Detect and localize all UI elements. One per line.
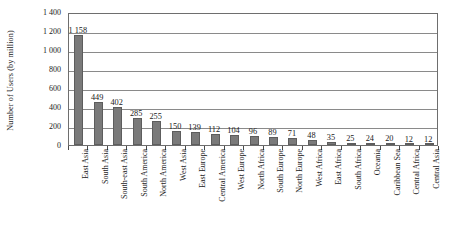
x-category-label: Central Asia	[432, 149, 441, 239]
x-category-label: West Europe	[237, 149, 246, 239]
x-category-label: East Asia	[81, 149, 90, 239]
bar[interactable]	[405, 143, 414, 145]
y-tick-label: 1 200	[43, 28, 61, 36]
x-category-label: South Africa	[354, 149, 363, 239]
x-category-label: East Europe	[198, 149, 207, 239]
bar[interactable]	[113, 107, 122, 145]
y-axis-title-text: Number of Users (by million)	[6, 30, 15, 131]
x-category-label: Central America	[218, 149, 227, 239]
bar[interactable]	[288, 138, 297, 145]
y-tick-label: 1 000	[43, 47, 61, 55]
x-category-label: South Europe	[276, 149, 285, 239]
x-category-label: West Asia	[179, 149, 188, 239]
y-tick-label: 400	[49, 104, 61, 112]
x-tick	[68, 146, 69, 150]
y-tick-label: 0	[57, 142, 61, 150]
bar[interactable]	[211, 134, 220, 145]
bar[interactable]	[386, 143, 395, 145]
x-category-label: South-east Asia	[120, 149, 129, 239]
bar[interactable]	[308, 140, 317, 145]
y-axis-title: Number of Users (by million)	[0, 0, 20, 160]
x-category-label: Caribbean Sea	[393, 149, 402, 239]
x-category-label: West Africa	[315, 149, 324, 239]
bar[interactable]	[327, 142, 336, 145]
bar[interactable]	[366, 143, 375, 145]
x-category-label: South Asia	[101, 149, 110, 239]
y-tick-label: 800	[49, 66, 61, 74]
bar[interactable]	[191, 132, 200, 145]
x-category-label: North Africa	[257, 149, 266, 239]
x-axis-category-labels: East AsiaSouth AsiaSouth-east AsiaSouth …	[68, 151, 452, 241]
bar[interactable]	[94, 102, 103, 145]
bar[interactable]	[347, 143, 356, 145]
x-category-label: Oceania	[373, 149, 382, 239]
bar[interactable]	[152, 121, 161, 145]
plot-area	[68, 13, 438, 146]
y-tick-label: 200	[49, 123, 61, 131]
x-category-label: Central Africa	[412, 149, 421, 239]
y-axis-tick-labels: 1 4001 2001 0008006004002000	[20, 0, 65, 160]
x-category-label: North America	[159, 149, 168, 239]
x-category-label: East Africa	[334, 149, 343, 239]
y-tick-label: 600	[49, 85, 61, 93]
bar[interactable]	[425, 143, 434, 145]
x-category-label: South America	[140, 149, 149, 239]
bar[interactable]	[133, 118, 142, 145]
bar[interactable]	[250, 136, 259, 145]
bar[interactable]	[269, 137, 278, 145]
x-category-label: North Europe	[295, 149, 304, 239]
y-tick-label: 1 400	[43, 9, 61, 17]
bar-chart: Number of Users (by million) 1 4001 2001…	[0, 0, 452, 241]
bar[interactable]	[230, 135, 239, 145]
bar[interactable]	[172, 131, 181, 145]
bars-layer	[69, 14, 437, 145]
bar[interactable]	[74, 35, 83, 145]
